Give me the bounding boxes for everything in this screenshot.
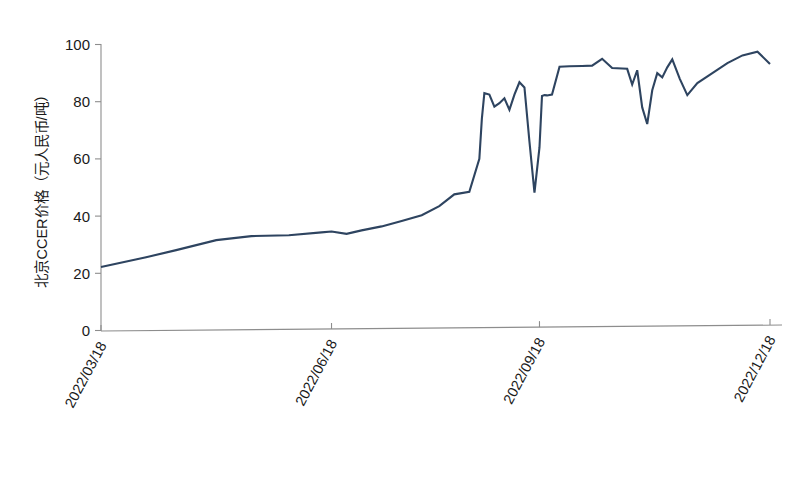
y-tick-label: 40	[73, 208, 90, 225]
x-tick-mark-group	[101, 319, 770, 331]
chart-container: 北京CCER价格（元人民币/吨） 020406080100 2022/03/18…	[0, 0, 797, 482]
x-axis-line	[101, 325, 782, 331]
y-tick-label: 0	[82, 322, 90, 339]
y-axis-title: 北京CCER价格（元人民币/吨）	[34, 88, 50, 287]
x-tick-label: 2022/12/18	[730, 333, 778, 405]
line-chart: 北京CCER价格（元人民币/吨） 020406080100 2022/03/18…	[0, 0, 797, 482]
data-series-line	[101, 52, 770, 267]
y-tick-label: 60	[73, 150, 90, 167]
x-tick-label: 2022/03/18	[61, 339, 109, 411]
y-tick-mark-group	[95, 45, 101, 331]
y-tick-label-group: 020406080100	[65, 36, 90, 339]
data-series-group	[101, 52, 770, 267]
x-tick-label: 2022/09/18	[500, 335, 548, 407]
x-tick-label: 2022/06/18	[292, 337, 340, 409]
y-tick-label: 20	[73, 265, 90, 282]
y-tick-label: 80	[73, 93, 90, 110]
y-tick-label: 100	[65, 36, 90, 53]
x-tick-label-group: 2022/03/182022/06/182022/09/182022/12/18	[61, 333, 778, 410]
